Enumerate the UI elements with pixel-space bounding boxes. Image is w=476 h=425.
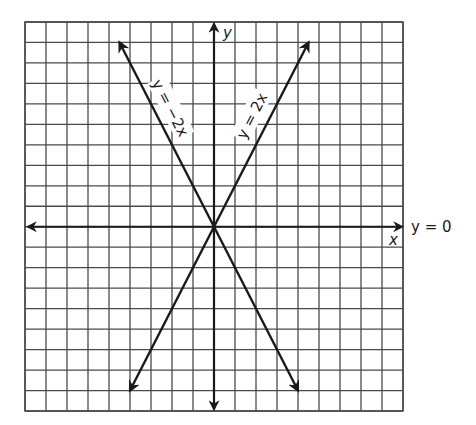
- label-y-zero: y = 0: [411, 218, 452, 236]
- label-y-2x: y = 2x: [230, 88, 272, 143]
- label-y-2x-text: y = 2x: [233, 90, 272, 142]
- coordinate-plane: y = −2x y = 2x y x y = 0: [0, 0, 476, 425]
- y-axis-label: y: [222, 24, 233, 42]
- line-y-neg-2x: [120, 42, 299, 390]
- label-y-neg-2x: y = −2x: [147, 75, 194, 141]
- x-axis-label: x: [388, 231, 398, 249]
